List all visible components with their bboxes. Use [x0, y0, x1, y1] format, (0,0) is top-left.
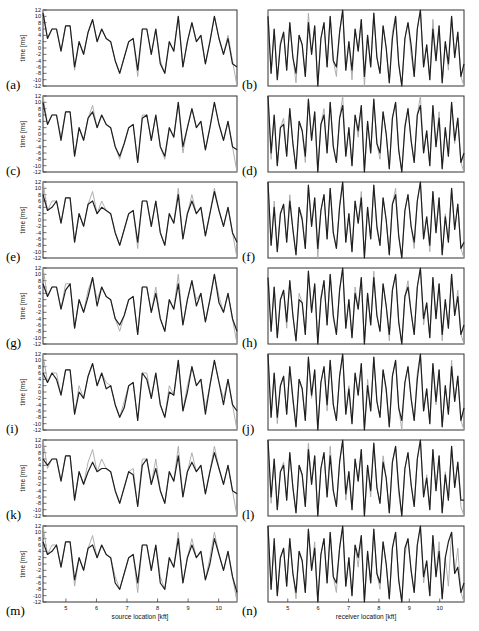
panel-letter: (i) [6, 421, 18, 436]
series-black-line [268, 182, 464, 258]
y-tick-label: -4 [36, 402, 41, 408]
y-tick-label: -4 [36, 58, 41, 64]
y-tick-label: 10 [35, 357, 41, 363]
series-black-line [43, 102, 237, 162]
y-tick-label: 10 [35, 529, 41, 535]
y-tick-label: 2 [38, 39, 41, 45]
y-tick-label: -8 [36, 156, 41, 162]
y-tick-label: 12 [35, 7, 41, 13]
y-tick-label: 12 [35, 523, 41, 529]
y-axis-label: time [ms] [19, 34, 27, 61]
y-axis-label: time [ms] [19, 206, 27, 233]
y-tick-label: -8 [36, 586, 41, 592]
panel-g: 121086420-2-4-6-8-10-12time [ms](g) [6, 265, 237, 350]
y-tick-label: -6 [36, 580, 41, 586]
y-tick-label: 2 [38, 383, 41, 389]
y-tick-label: 2 [38, 555, 41, 561]
y-tick-label: -10 [33, 163, 41, 169]
x-tick-label: 9 [187, 605, 190, 611]
x-axis-label: receiver location [kft] [336, 613, 397, 621]
panel-letter: (c) [6, 163, 20, 178]
y-tick-label: 8 [38, 20, 41, 26]
y-tick-label: -2 [36, 395, 41, 401]
y-tick-label: 10 [35, 13, 41, 19]
y-tick-label: 0 [38, 475, 41, 481]
y-tick-label: 2 [38, 211, 41, 217]
y-axis-label: time [ms] [19, 120, 27, 147]
y-axis-label: time [ms] [19, 464, 27, 491]
x-tick-label: 9 [408, 605, 411, 611]
y-tick-label: 4 [38, 290, 41, 296]
y-tick-label: 4 [38, 376, 41, 382]
y-tick-label: 8 [38, 106, 41, 112]
panel-m: 121086420-2-4-6-8-10-125678910source loc… [6, 523, 237, 621]
y-tick-label: 0 [38, 303, 41, 309]
y-tick-label: -12 [33, 513, 41, 519]
y-tick-label: -2 [36, 567, 41, 573]
y-tick-label: 12 [35, 93, 41, 99]
x-tick-label: 10 [216, 605, 222, 611]
y-tick-label: 12 [35, 351, 41, 357]
y-tick-label: -6 [36, 150, 41, 156]
series-black-line [43, 13, 237, 73]
x-tick-label: 5 [286, 605, 289, 611]
y-tick-label: -8 [36, 70, 41, 76]
y-tick-label: -4 [36, 230, 41, 236]
y-tick-label: 4 [38, 118, 41, 124]
y-tick-label: -12 [33, 341, 41, 347]
y-axis-label: time [ms] [19, 550, 27, 577]
y-tick-label: 10 [35, 271, 41, 277]
y-tick-label: 0 [38, 389, 41, 395]
y-tick-label: -2 [36, 137, 41, 143]
y-tick-label: 2 [38, 469, 41, 475]
y-tick-label: -8 [36, 242, 41, 248]
x-tick-label: 10 [437, 605, 443, 611]
y-tick-label: -8 [36, 500, 41, 506]
y-tick-label: 0 [38, 45, 41, 51]
y-tick-label: -4 [36, 488, 41, 494]
y-tick-label: -4 [36, 574, 41, 580]
y-tick-label: 6 [38, 542, 41, 548]
panel-f: (f) [242, 182, 464, 264]
y-tick-label: 6 [38, 456, 41, 462]
y-tick-label: 12 [35, 265, 41, 271]
x-tick-label: 7 [125, 605, 128, 611]
panel-e: 121086420-2-4-6-8-10-12time [ms](e) [6, 179, 237, 264]
y-tick-label: -12 [33, 255, 41, 261]
y-tick-label: 12 [35, 437, 41, 443]
y-tick-label: -6 [36, 64, 41, 70]
panel-h: (h) [242, 268, 464, 350]
panel-letter: (l) [242, 507, 254, 522]
series-black-line [268, 268, 464, 344]
y-tick-label: 8 [38, 450, 41, 456]
y-axis-label: time [ms] [19, 292, 27, 319]
y-tick-label: 4 [38, 32, 41, 38]
y-tick-label: 6 [38, 370, 41, 376]
y-tick-label: 0 [38, 561, 41, 567]
panel-letter: (d) [242, 163, 257, 178]
y-tick-label: -2 [36, 51, 41, 57]
y-tick-label: 4 [38, 548, 41, 554]
y-tick-label: -12 [33, 83, 41, 89]
panel-letter: (j) [242, 421, 254, 436]
y-tick-label: 8 [38, 364, 41, 370]
panel-letter: (k) [6, 507, 21, 522]
panel-letter: (n) [242, 603, 257, 618]
x-tick-label: 8 [377, 605, 380, 611]
panel-letter: (h) [242, 335, 257, 350]
x-tick-label: 6 [95, 605, 98, 611]
panel-letter: (e) [6, 249, 20, 264]
x-tick-label: 6 [317, 605, 320, 611]
panel-n: 5678910receiver location [kft](n) [242, 526, 464, 621]
y-tick-label: -8 [36, 328, 41, 334]
series-black-line [268, 440, 464, 516]
y-tick-label: -8 [36, 414, 41, 420]
y-tick-label: 2 [38, 297, 41, 303]
y-tick-label: 6 [38, 112, 41, 118]
y-tick-label: 8 [38, 536, 41, 542]
y-tick-label: -2 [36, 309, 41, 315]
series-black-line [268, 96, 464, 172]
y-tick-label: -6 [36, 408, 41, 414]
y-tick-label: 10 [35, 185, 41, 191]
panel-k: 121086420-2-4-6-8-10-12time [ms](k) [6, 437, 237, 522]
